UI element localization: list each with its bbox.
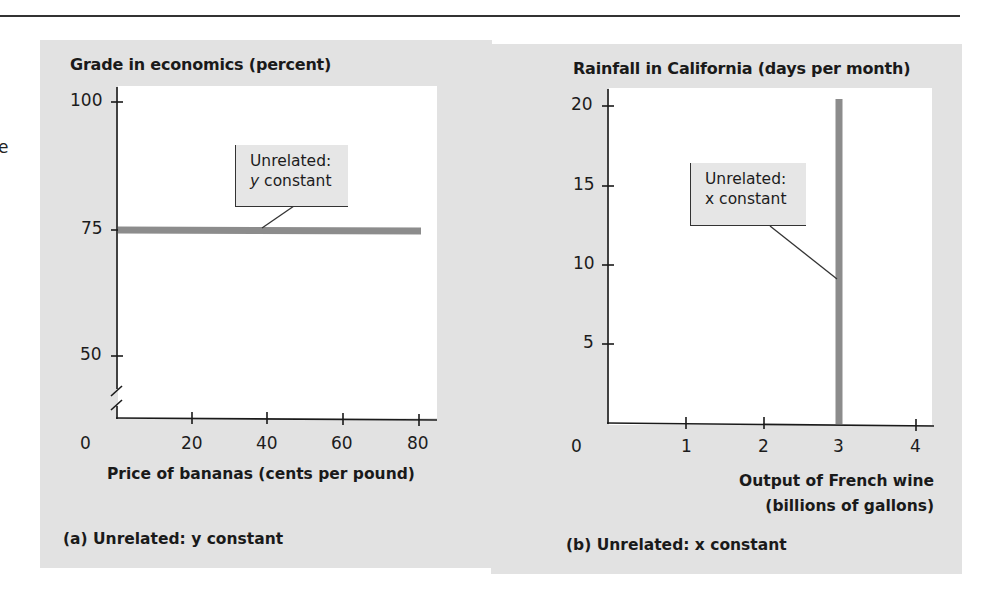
panel-a-callout-line2: y constant [250, 171, 340, 191]
panel-b-xtick-1: 1 [681, 436, 692, 456]
panel-b-title: Rainfall in California (days per month) [573, 59, 910, 78]
panel-a-xtick-60: 60 [331, 433, 353, 453]
panel-b-x-axis [607, 417, 934, 431]
panel-a-callout: Unrelated: y constant [235, 145, 348, 207]
panel-b-xtick-3: 3 [833, 436, 844, 456]
panel-a-ytick-75: 75 [81, 218, 103, 238]
chart-graphics [0, 0, 982, 614]
panel-a-ytick-100: 100 [70, 90, 102, 110]
panel-a-caption: (a) Unrelated: y constant [63, 530, 283, 548]
panel-a-ytick-50: 50 [80, 344, 102, 364]
panel-b-caption: (b) Unrelated: x constant [566, 536, 787, 554]
panel-a-y-axis [111, 87, 123, 419]
panel-b-callout-line1: Unrelated: [705, 169, 798, 189]
panel-a-x-axis-label: Price of bananas (cents per pound) [107, 465, 415, 483]
panel-a-x-axis [116, 412, 437, 426]
panel-a-callout-variable: y [250, 172, 259, 190]
panel-b-ytick-15: 15 [573, 174, 595, 194]
panel-a-callout-leader [262, 206, 294, 228]
panel-b-x-axis-label-line2: (billions of gallons) [765, 497, 934, 515]
panel-b-callout-variable: x [705, 190, 714, 208]
panel-b-callout-line2: x constant [705, 189, 798, 209]
panel-b-ytick-5: 5 [583, 332, 594, 352]
panel-a-xtick-80: 80 [407, 433, 429, 453]
panel-b-callout-rest: constant [714, 190, 786, 208]
panel-b-y-axis [602, 89, 614, 424]
panel-b-xtick-2: 2 [758, 436, 769, 456]
panel-b-x-axis-label-line1: Output of French wine [739, 472, 934, 490]
panel-a-title: Grade in economics (percent) [70, 55, 331, 74]
panel-b-ytick-20: 20 [571, 94, 593, 114]
panel-a-callout-rest: constant [259, 172, 331, 190]
panel-b-callout-leader [770, 226, 837, 279]
panel-a-constant-y-line [118, 230, 421, 231]
panel-a-xtick-20: 20 [181, 433, 203, 453]
panel-b-xtick-4: 4 [910, 436, 921, 456]
panel-b-ytick-10: 10 [573, 253, 595, 273]
panel-a-xtick-0: 0 [80, 433, 91, 453]
panel-a-xtick-40: 40 [256, 433, 278, 453]
panel-b-xtick-0: 0 [571, 436, 582, 456]
panel-b-callout: Unrelated: x constant [690, 163, 806, 226]
panel-a-callout-line1: Unrelated: [250, 151, 340, 171]
